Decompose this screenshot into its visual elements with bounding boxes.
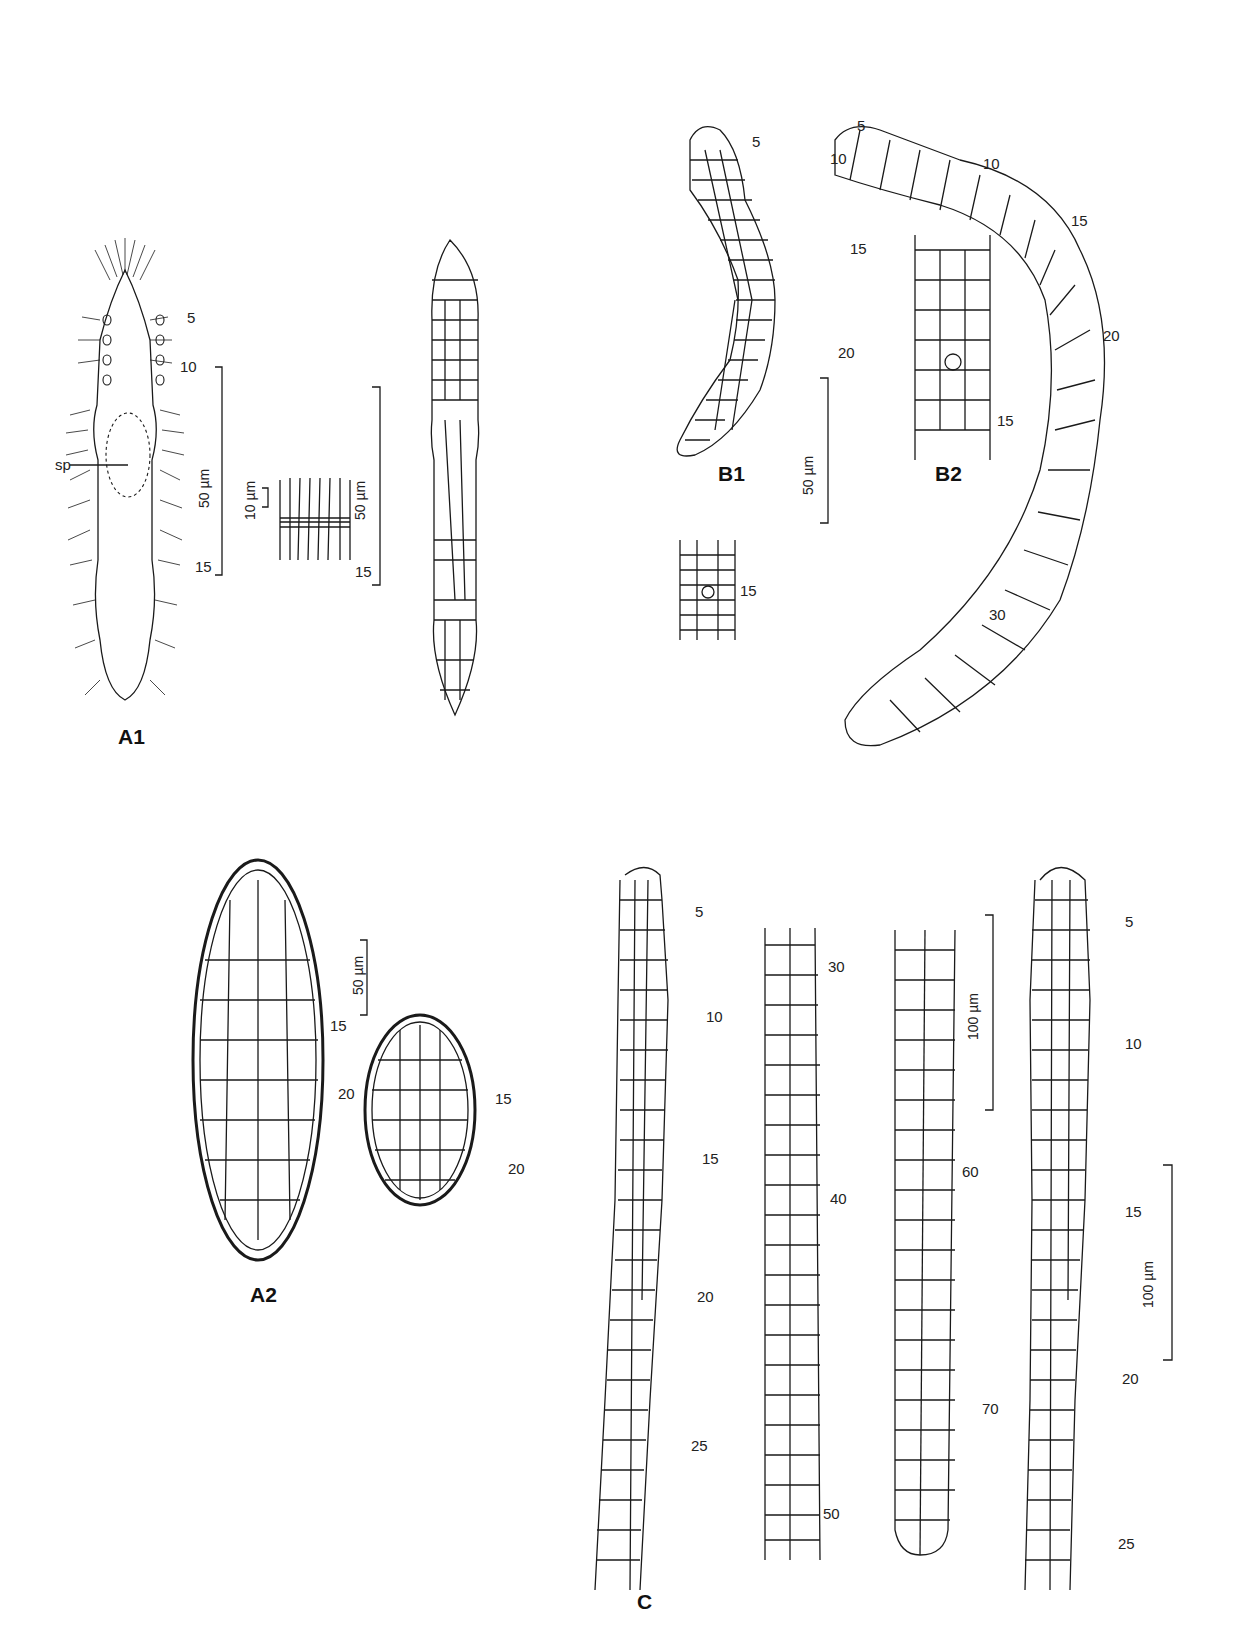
c-scale-bar-top: [985, 915, 993, 1110]
c-s1-label-20: 20: [697, 1288, 714, 1305]
b2-label-15: 15: [1071, 212, 1088, 229]
b1-label-15: 15: [850, 240, 867, 257]
panel-label-a1: A1: [118, 725, 145, 749]
a1-sp-annotation: sp: [55, 456, 71, 473]
b2-detail-label-15: 15: [997, 412, 1014, 429]
b2-organism-drawing: [835, 127, 1105, 746]
c-strand-3: [895, 930, 955, 1555]
c-s4-label-25: 25: [1118, 1535, 1135, 1552]
panel-label-b1: B1: [718, 462, 745, 486]
c-s4-label-5: 5: [1125, 913, 1133, 930]
b1-label-10: 10: [830, 150, 847, 167]
c-s3-label-60: 60: [962, 1163, 979, 1180]
c-strand-2: [765, 928, 820, 1560]
a1-label-5: 5: [187, 309, 195, 326]
b2-label-20: 20: [1103, 327, 1120, 344]
c-scale-bottom: 100 µm: [1140, 1261, 1156, 1308]
c-s2-label-40: 40: [830, 1190, 847, 1207]
b1-label-20: 20: [838, 344, 855, 361]
a2-right-label-15: 15: [495, 1090, 512, 1107]
c-strand-4: [1025, 868, 1090, 1591]
a1-scale-main: 50 µm: [196, 469, 212, 508]
a1-label-15: 15: [195, 558, 212, 575]
panel-label-c: C: [637, 1590, 652, 1614]
a1-ventral-drawing: [431, 240, 478, 715]
b1-segment-detail: [680, 378, 828, 640]
c-s1-label-15: 15: [702, 1150, 719, 1167]
c-s2-label-30: 30: [828, 958, 845, 975]
c-s1-label-25: 25: [691, 1437, 708, 1454]
a2-large-organism: [193, 860, 367, 1260]
c-s3-label-70: 70: [982, 1400, 999, 1417]
b1-label-5: 5: [752, 133, 760, 150]
figure-drawings: [0, 0, 1240, 1638]
c-scale-top: 100 µm: [965, 993, 981, 1040]
a2-small-organism: [365, 1015, 475, 1205]
b1-scale: 50 µm: [800, 456, 816, 495]
a2-left-label-15: 15: [330, 1017, 347, 1034]
c-s4-label-20: 20: [1122, 1370, 1139, 1387]
a2-scale: 50 µm: [350, 956, 366, 995]
c-strand-1: [595, 868, 668, 1591]
a1-scale-right: 50 µm: [352, 481, 368, 520]
a1-scale-detail: 10 µm: [242, 481, 258, 520]
b2-label-10: 10: [983, 155, 1000, 172]
c-s4-label-10: 10: [1125, 1035, 1142, 1052]
c-s1-label-10: 10: [706, 1008, 723, 1025]
b2-segment-detail: [915, 235, 990, 460]
a1-detail-label-15: 15: [355, 563, 372, 580]
panel-label-a2: A2: [250, 1283, 277, 1307]
c-s1-label-5: 5: [695, 903, 703, 920]
a1-label-10: 10: [180, 358, 197, 375]
c-scale-bar-bottom: [1163, 1165, 1172, 1360]
b2-label-30: 30: [989, 606, 1006, 623]
a1-organism-drawing: [66, 238, 268, 700]
c-s4-label-15: 15: [1125, 1203, 1142, 1220]
panel-label-b2: B2: [935, 462, 962, 486]
c-s2-label-50: 50: [823, 1505, 840, 1522]
a2-right-label-20: 20: [508, 1160, 525, 1177]
b2-label-5: 5: [857, 117, 865, 134]
b1-detail-label-15: 15: [740, 582, 757, 599]
b1-organism-drawing: [677, 127, 775, 456]
a2-left-label-20: 20: [338, 1085, 355, 1102]
